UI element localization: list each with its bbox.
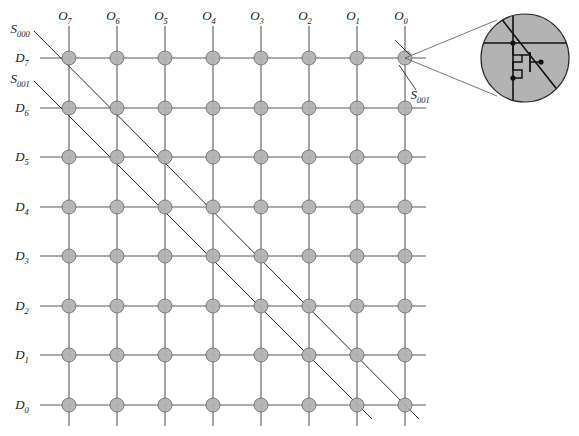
inset-connection-dot (510, 75, 515, 80)
memory-cell-node[interactable] (206, 150, 220, 164)
memory-cell-node[interactable] (158, 348, 172, 362)
diagonal-line-S001 (34, 81, 372, 419)
memory-cell-node[interactable] (350, 348, 364, 362)
memory-cell-node[interactable] (110, 249, 124, 263)
memory-cell-node[interactable] (62, 200, 76, 214)
memory-cell-node[interactable] (398, 200, 412, 214)
memory-cell-node[interactable] (254, 150, 268, 164)
grid-lines-group (40, 26, 426, 426)
row-label-D0: D0 (14, 397, 29, 415)
memory-cell-node[interactable] (254, 200, 268, 214)
memory-cell-node[interactable] (254, 249, 268, 263)
memory-cell-node[interactable] (254, 101, 268, 115)
row-label-D1: D1 (14, 347, 29, 365)
memory-cell-node[interactable] (62, 150, 76, 164)
row-label-D5: D5 (14, 149, 29, 167)
row-label-D7: D7 (14, 50, 29, 68)
memory-cell-node[interactable] (206, 398, 220, 412)
memory-cell-node[interactable] (62, 348, 76, 362)
row-label-D4: D4 (14, 199, 29, 217)
memory-cell-node[interactable] (206, 348, 220, 362)
memory-cell-node[interactable] (62, 101, 76, 115)
memory-cell-node[interactable] (158, 249, 172, 263)
memory-cell-node[interactable] (302, 150, 316, 164)
memory-cell-node[interactable] (398, 249, 412, 263)
memory-cell-node[interactable] (158, 51, 172, 65)
memory-cell-node[interactable] (254, 299, 268, 313)
memory-cell-node[interactable] (398, 150, 412, 164)
row-label-D6: D6 (14, 100, 29, 118)
grid-nodes-group (62, 51, 412, 412)
figure-root: S001 O7O6O5O4O3O2O1O0D7D6D5D4D3D2D1D0S00… (0, 0, 579, 436)
memory-cell-node[interactable] (110, 348, 124, 362)
memory-cell-node[interactable] (62, 51, 76, 65)
memory-cell-node[interactable] (302, 200, 316, 214)
memory-cell-node[interactable] (302, 51, 316, 65)
memory-cell-node[interactable] (110, 150, 124, 164)
memory-cell-node[interactable] (302, 398, 316, 412)
diagonal-label-S001: S001 (10, 71, 29, 89)
memory-cell-node[interactable] (110, 299, 124, 313)
memory-cell-node[interactable] (62, 398, 76, 412)
column-label-O2: O2 (298, 8, 312, 26)
column-label-O0: O0 (394, 8, 408, 26)
memory-cell-node[interactable] (206, 200, 220, 214)
memory-cell-node[interactable] (398, 101, 412, 115)
memory-cell-node[interactable] (206, 51, 220, 65)
memory-cell-node[interactable] (110, 398, 124, 412)
memory-cell-node[interactable] (158, 398, 172, 412)
row-label-D3: D3 (14, 248, 29, 266)
memory-cell-node[interactable] (62, 249, 76, 263)
diagonal-label-S000: S000 (10, 21, 30, 39)
crossbar-diagram: S001 O7O6O5O4O3O2O1O0D7D6D5D4D3D2D1D0S00… (0, 0, 579, 436)
memory-cell-node[interactable] (254, 51, 268, 65)
column-label-O5: O5 (154, 8, 168, 26)
memory-cell-node[interactable] (206, 249, 220, 263)
memory-cell-node[interactable] (350, 51, 364, 65)
memory-cell-node[interactable] (110, 51, 124, 65)
cell-pointer-label-S001: S001 (410, 87, 429, 105)
column-label-O6: O6 (106, 8, 120, 26)
memory-cell-node[interactable] (302, 299, 316, 313)
memory-cell-node[interactable] (302, 101, 316, 115)
column-label-O1: O1 (346, 8, 360, 26)
memory-cell-node[interactable] (350, 150, 364, 164)
magnified-inset-group (405, 14, 569, 102)
memory-cell-node[interactable] (206, 299, 220, 313)
memory-cell-node[interactable] (158, 150, 172, 164)
memory-cell-node[interactable] (350, 200, 364, 214)
memory-cell-node[interactable] (350, 101, 364, 115)
memory-cell-node[interactable] (254, 398, 268, 412)
memory-cell-node[interactable] (110, 101, 124, 115)
memory-cell-node[interactable] (62, 299, 76, 313)
inset-connection-dot (510, 40, 515, 45)
memory-cell-node[interactable] (158, 101, 172, 115)
memory-cell-node[interactable] (110, 200, 124, 214)
memory-cell-node[interactable] (302, 249, 316, 263)
column-label-O3: O3 (250, 8, 264, 26)
memory-cell-node[interactable] (398, 398, 412, 412)
memory-cell-node[interactable] (158, 299, 172, 313)
memory-cell-node[interactable] (254, 348, 268, 362)
memory-cell-node[interactable] (398, 299, 412, 313)
memory-cell-node[interactable] (206, 101, 220, 115)
row-label-D2: D2 (14, 298, 29, 316)
inset-connection-dot (538, 59, 543, 64)
memory-cell-node[interactable] (350, 249, 364, 263)
memory-cell-node[interactable] (398, 348, 412, 362)
memory-cell-node[interactable] (350, 299, 364, 313)
memory-cell-node[interactable] (350, 398, 364, 412)
column-label-O7: O7 (58, 8, 72, 26)
memory-cell-node[interactable] (158, 200, 172, 214)
column-label-O4: O4 (202, 8, 216, 26)
memory-cell-node[interactable] (302, 348, 316, 362)
